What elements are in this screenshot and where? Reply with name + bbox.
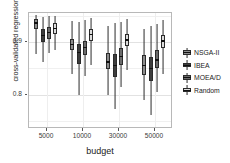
legend-item-label: IBEA	[194, 62, 210, 69]
x-axis-tick-label: 50000	[145, 132, 163, 139]
median-line	[70, 44, 74, 45]
median-line	[41, 35, 45, 36]
y-axis: 0.90.8	[0, 0, 27, 135]
boxplot-box	[119, 13, 123, 128]
median-line	[53, 28, 57, 29]
median-line	[119, 56, 123, 57]
legend-median-line	[183, 77, 191, 78]
median-line	[125, 39, 129, 40]
median-line	[83, 47, 87, 48]
boxplot-box	[53, 13, 57, 128]
x-axis-tick-mark	[46, 128, 47, 131]
x-axis: 5000100003000050000	[0, 128, 230, 142]
x-axis-tick-label: 10000	[73, 132, 91, 139]
legend-median-line	[183, 65, 191, 66]
median-line	[89, 34, 93, 35]
median-line	[113, 65, 117, 66]
median-line	[106, 61, 110, 62]
box-rect	[77, 44, 81, 64]
legend-item-ibea[interactable]: IBEA	[182, 60, 230, 71]
legend-item-label: NSGA-II	[194, 49, 219, 56]
x-axis-tick-mark	[118, 128, 119, 131]
y-axis-tick-mark	[25, 94, 28, 95]
boxplot-box	[70, 13, 74, 128]
legend-median-line	[183, 52, 191, 53]
boxplot-box	[41, 13, 45, 128]
boxplot-box	[89, 13, 93, 128]
legend-item-label: MOEA/D	[194, 74, 221, 81]
boxplot-box	[34, 13, 38, 128]
boxplot-chart: cross-validated regression accuracy 0.90…	[0, 0, 230, 163]
median-line	[161, 40, 165, 41]
median-line	[77, 52, 81, 53]
median-line	[155, 59, 159, 60]
plot-panel	[28, 12, 172, 128]
boxplot-box	[155, 13, 159, 128]
legend-item-nsga-ii[interactable]: NSGA-II	[182, 47, 230, 58]
legend-item-label: Random	[194, 87, 220, 94]
median-line	[149, 68, 153, 69]
legend-swatch-boxplot-icon	[182, 73, 191, 83]
whisker-line	[91, 18, 92, 65]
legend: NSGA-IIIBEAMOEA/DRandom	[182, 47, 230, 97]
y-axis-tick-label: 0.9	[13, 37, 22, 44]
y-axis-tick-label: 0.8	[13, 90, 22, 97]
boxplot-box	[142, 13, 146, 128]
boxplot-box	[77, 13, 81, 128]
legend-item-moea-d[interactable]: MOEA/D	[182, 72, 230, 83]
legend-swatch-boxplot-icon	[182, 60, 191, 70]
x-axis-tick-label: 5000	[39, 132, 54, 139]
x-axis-title: budget	[20, 146, 180, 156]
boxplot-box	[113, 13, 117, 128]
legend-median-line	[183, 90, 191, 91]
x-axis-tick-mark	[154, 128, 155, 131]
median-line	[34, 22, 38, 23]
legend-item-random[interactable]: Random	[182, 85, 230, 96]
boxplot-box	[125, 13, 129, 128]
boxplot-box	[149, 13, 153, 128]
y-axis-tick-mark	[25, 41, 28, 42]
median-line	[47, 32, 51, 33]
boxplot-box	[83, 13, 87, 128]
box-rect	[34, 19, 38, 29]
boxplot-box	[47, 13, 51, 128]
boxplot-box	[161, 13, 165, 128]
x-axis-tick-mark	[82, 128, 83, 131]
legend-swatch-boxplot-icon	[182, 48, 191, 58]
boxplot-box	[106, 13, 110, 128]
x-axis-tick-label: 30000	[109, 132, 127, 139]
legend-swatch-boxplot-icon	[182, 85, 191, 95]
median-line	[142, 65, 146, 66]
